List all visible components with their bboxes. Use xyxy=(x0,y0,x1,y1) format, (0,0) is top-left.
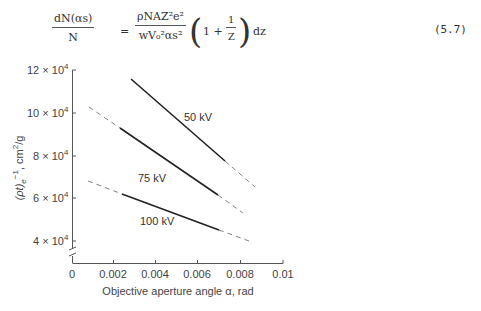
x-tick-0004: 0.004 xyxy=(141,268,169,280)
x-axis xyxy=(73,260,284,264)
x-axis-label: Objective aperture angle α, rad xyxy=(102,285,253,297)
y-tick-10e4: 10 × 104 xyxy=(27,105,69,119)
y-tick-8e4: 8 × 104 xyxy=(33,148,69,162)
series-50kv: 50 kV xyxy=(131,79,255,187)
y-tick-12e4: 12 × 104 xyxy=(27,62,69,76)
x-tick-0: 0 xyxy=(69,268,75,280)
y-tick-labels: 12 × 104 10 × 104 8 × 104 6 × 104 4 × 10… xyxy=(27,62,69,247)
label-100kv: 100 kV xyxy=(140,215,175,227)
y-tick-6e4: 6 × 104 xyxy=(33,190,69,204)
x-tick-0002: 0.002 xyxy=(99,268,127,280)
x-tick-0008: 0.008 xyxy=(226,268,254,280)
x-tick-labels: 0 0.002 0.004 0.006 0.008 0.01 xyxy=(69,268,294,280)
label-50kv: 50 kV xyxy=(184,111,213,123)
y-axis xyxy=(69,70,76,263)
x-tick-001: 0.01 xyxy=(272,268,293,280)
y-tick-4e4: 4 × 104 xyxy=(33,233,69,247)
chart: 12 × 104 10 × 104 8 × 104 6 × 104 4 × 10… xyxy=(0,0,481,311)
y-axis-label: (ρt)e−1, cm2/g xyxy=(11,136,28,201)
series-75kv: 75 kV xyxy=(89,107,243,213)
series-100kv: 100 kV xyxy=(88,181,249,241)
x-tick-0006: 0.006 xyxy=(183,268,211,280)
label-75kv: 75 kV xyxy=(138,172,167,184)
